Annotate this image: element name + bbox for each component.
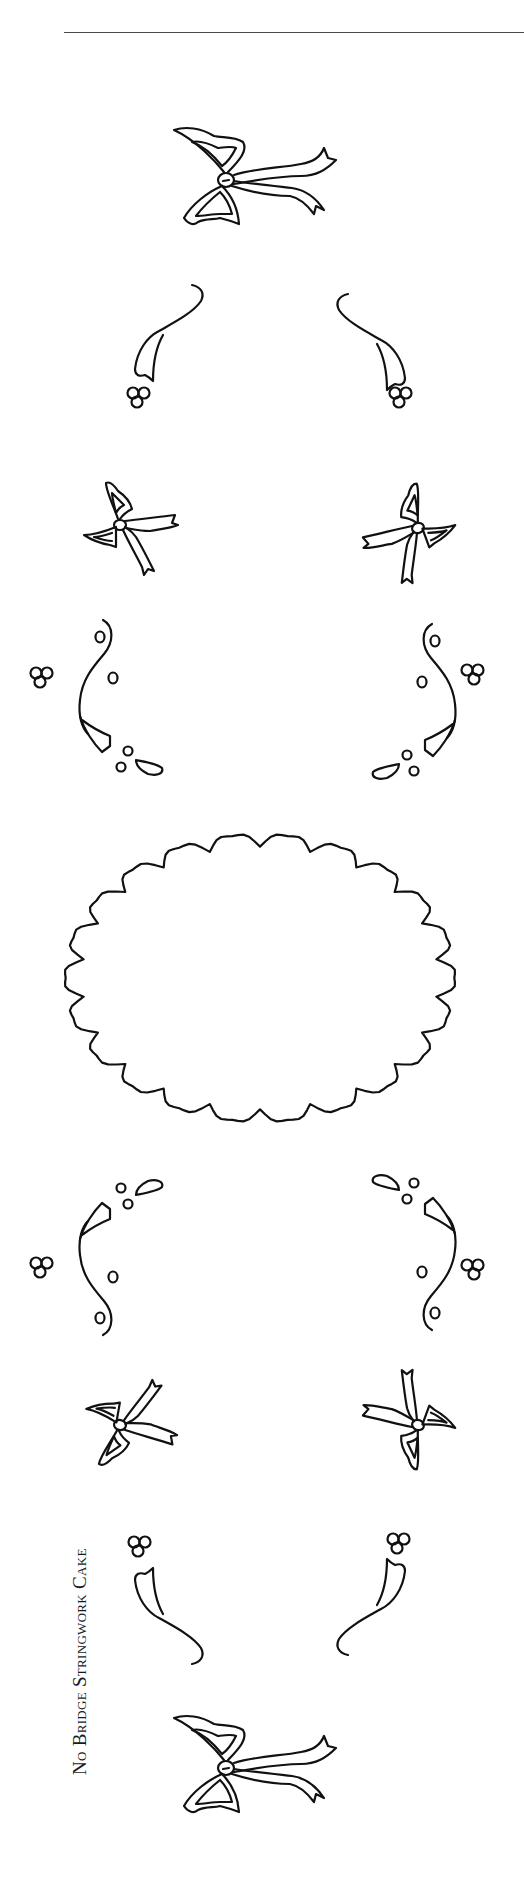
- top-center-bow: [174, 128, 336, 224]
- upper-left-bow: [84, 482, 178, 575]
- upper-right-scroll: [373, 624, 456, 779]
- upper-left-scroll: [79, 620, 162, 775]
- lower-left-dot-cluster: [129, 1537, 151, 1557]
- pattern-caption: No Bridge Stringwork Cake: [69, 1548, 91, 1775]
- upper-left-dot-cluster: [128, 388, 150, 408]
- center-scalloped-oval: [65, 835, 455, 1122]
- lower-right-scroll: [373, 1175, 456, 1330]
- pattern-page: No Bridge Stringwork Cake: [0, 0, 524, 1902]
- upper-right-bow: [349, 476, 469, 595]
- upper-right-swag: [337, 294, 405, 390]
- lower-right-swag: [337, 1559, 405, 1655]
- bottom-center-bow: [174, 1716, 336, 1812]
- lower-left-scroll: [79, 1180, 162, 1335]
- upper-left-side-dots: [31, 668, 53, 688]
- upper-right-side-dots: [462, 665, 484, 685]
- upper-left-swag: [135, 285, 203, 381]
- lower-left-bow: [77, 1370, 186, 1477]
- lower-right-dot-cluster: [388, 1534, 410, 1554]
- lower-left-swag: [135, 1568, 203, 1664]
- lower-left-side-dots: [31, 1258, 53, 1278]
- lower-right-side-dots: [462, 1260, 484, 1280]
- lower-right-bow: [349, 1358, 469, 1477]
- upper-right-dot-cluster: [390, 388, 412, 408]
